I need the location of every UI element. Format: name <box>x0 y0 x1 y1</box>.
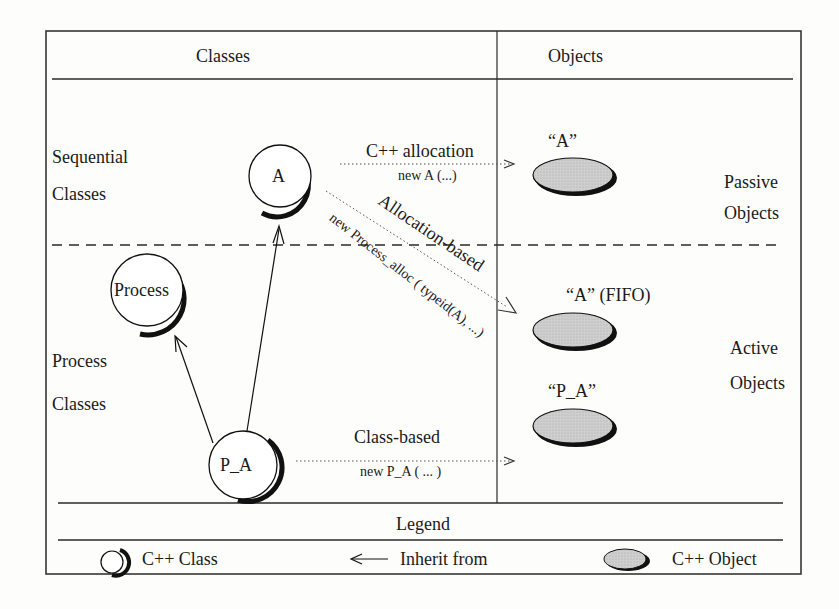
legend-object-label: C++ Object <box>672 549 757 570</box>
class-pa-label: P_A <box>220 455 252 476</box>
passive-label-line1: Passive <box>724 172 778 193</box>
legend-inherit-label: Inherit from <box>400 549 487 570</box>
class-a-label: A <box>272 166 285 187</box>
object-active-pa-label: “P_A” <box>548 381 596 402</box>
object-active-pa-ellipse <box>533 409 617 447</box>
active-label-line2: Objects <box>730 373 785 394</box>
legend-object-icon <box>604 549 650 571</box>
class-based-title: Class-based <box>354 427 440 448</box>
active-label-line1: Active <box>730 338 778 359</box>
class-process-label: Process <box>114 280 169 301</box>
object-passive-a-ellipse <box>533 158 617 196</box>
cpp-allocation-code: new A (...) <box>398 168 457 184</box>
legend-title: Legend <box>396 514 450 535</box>
process-label-line2: Classes <box>52 394 106 415</box>
inherit-arrow-pa-to-process <box>175 336 213 443</box>
inherit-arrow-pa-to-a <box>247 226 284 431</box>
objects-column-title: Objects <box>548 46 603 67</box>
process-label-line1: Process <box>52 351 107 372</box>
object-active-a-label: “A” (FIFO) <box>566 285 650 306</box>
object-active-a-ellipse <box>533 313 617 351</box>
cpp-allocation-title: C++ allocation <box>366 141 474 162</box>
sequential-label-line2: Classes <box>52 184 106 205</box>
passive-label-line2: Objects <box>724 203 779 224</box>
sequential-label-line1: Sequential <box>52 147 128 168</box>
legend-inherit-arrow-icon <box>351 554 388 564</box>
legend-class-label: C++ Class <box>142 549 218 570</box>
object-passive-a-label: “A” <box>548 131 577 152</box>
classes-column-title: Classes <box>196 46 250 67</box>
class-based-code: new P_A ( ... ) <box>360 464 441 480</box>
legend-class-icon <box>101 550 129 576</box>
